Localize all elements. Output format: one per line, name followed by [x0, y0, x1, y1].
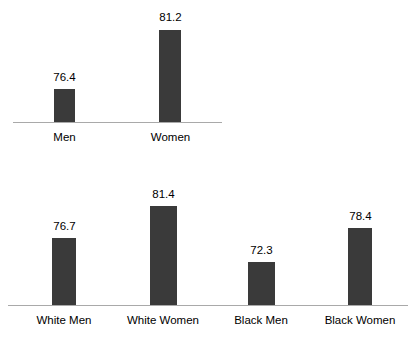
value-label-black-women: 78.4	[330, 210, 391, 223]
chart-panel-race-sex: 76.7 White Men 81.4 White Women 72.3 Bla…	[0, 171, 420, 343]
category-label-black-men: Black Men	[211, 314, 311, 327]
value-label-men: 76.4	[34, 71, 95, 84]
chart-panel-sex: 76.4 Men 81.2 Women	[0, 0, 420, 172]
bar-men	[54, 89, 75, 122]
category-label-white-women: White Women	[113, 314, 213, 327]
value-label-women: 81.2	[140, 11, 201, 24]
baseline-axis-top	[13, 122, 222, 123]
value-label-black-men: 72.3	[231, 244, 292, 257]
category-label-black-women: Black Women	[310, 314, 410, 327]
category-label-women: Women	[140, 131, 201, 144]
category-label-white-men: White Men	[14, 314, 114, 327]
bar-white-women	[150, 206, 177, 305]
value-label-white-women: 81.4	[133, 188, 194, 201]
bar-white-men	[52, 238, 76, 305]
value-label-white-men: 76.7	[34, 220, 95, 233]
bar-black-women	[348, 228, 372, 305]
baseline-axis-bottom	[8, 305, 408, 306]
chart-canvas: 76.4 Men 81.2 Women 76.7 White Men 81.4 …	[0, 0, 420, 343]
category-label-men: Men	[34, 131, 95, 144]
bar-women	[159, 30, 181, 122]
bar-black-men	[248, 262, 275, 305]
